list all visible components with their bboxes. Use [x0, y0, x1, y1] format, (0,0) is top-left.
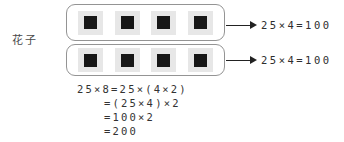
- equation-line-4: =200: [77, 124, 188, 138]
- square-cell: [188, 11, 213, 35]
- black-square: [84, 16, 97, 29]
- black-square: [84, 54, 97, 67]
- right-arrow-row-1: [226, 21, 257, 30]
- black-square: [194, 54, 207, 67]
- equation-line-3: =100×2: [77, 110, 188, 124]
- square-group-row-2: [66, 44, 225, 76]
- math-diagram: 花子 25×4=100 25×4=100 25×8=25×(4×2) =(25×…: [0, 0, 344, 142]
- arrow-shaft: [226, 60, 251, 61]
- square-cell: [115, 48, 140, 72]
- square-cell: [78, 11, 103, 35]
- black-square: [157, 16, 170, 29]
- arrow-shaft: [226, 25, 251, 26]
- black-square: [121, 54, 134, 67]
- black-square: [157, 54, 170, 67]
- square-cell: [151, 11, 176, 35]
- square-cell: [78, 48, 103, 72]
- row-2-product-label: 25×4=100: [261, 54, 332, 66]
- square-group-row-1: [66, 4, 225, 41]
- student-name-label: 花子: [12, 31, 38, 47]
- arrow-head-icon: [250, 21, 257, 29]
- black-square: [194, 16, 207, 29]
- equation-line-2: =(25×4)×2: [77, 96, 188, 110]
- worked-equation-block: 25×8=25×(4×2) =(25×4)×2 =100×2 =200: [77, 82, 188, 138]
- black-square: [121, 16, 134, 29]
- right-arrow-row-2: [226, 56, 257, 65]
- square-cell: [188, 48, 213, 72]
- equation-line-1: 25×8=25×(4×2): [77, 82, 188, 96]
- square-cell: [151, 48, 176, 72]
- square-cell: [115, 11, 140, 35]
- row-1-product-label: 25×4=100: [261, 19, 332, 31]
- arrow-head-icon: [250, 56, 257, 64]
